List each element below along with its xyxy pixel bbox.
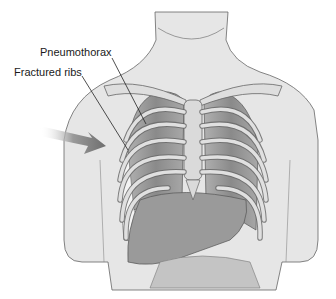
chest-illustration: Pneumothorax Fractured ribs xyxy=(0,0,336,299)
torso-drawing xyxy=(0,0,336,299)
fractured-ribs-label: Fractured ribs xyxy=(14,66,82,78)
pneumothorax-label: Pneumothorax xyxy=(40,46,112,58)
